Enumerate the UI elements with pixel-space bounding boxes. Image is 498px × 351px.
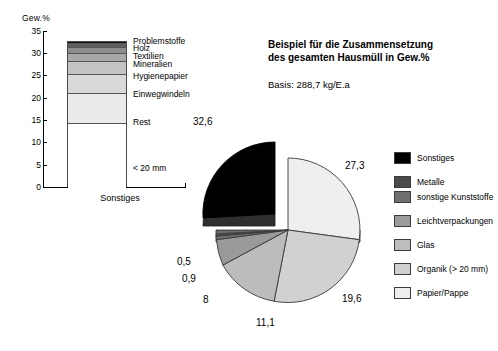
y-tick-label-10: 10 bbox=[19, 137, 41, 147]
chart-title-line2: des gesamten Hausmüll in Gew.% bbox=[268, 51, 498, 64]
legend-item-papier-pappe[interactable]: Papier/Pappe bbox=[394, 287, 498, 300]
y-axis-title: Gew.% bbox=[22, 13, 50, 23]
y-tick-5 bbox=[43, 165, 47, 166]
bar-segment-rest[interactable] bbox=[68, 94, 126, 124]
chart-title: Beispiel für die Zusammensetzung des ges… bbox=[268, 38, 498, 64]
pie-value-sonstige-kunststoffe: 0,9 bbox=[182, 273, 196, 284]
bar-label-einwegwindeln: Einwegwindeln bbox=[133, 89, 190, 99]
y-tick-label-0: 0 bbox=[19, 182, 41, 192]
legend-swatch-papier-pappe bbox=[394, 287, 411, 299]
bar-label-rest: Rest bbox=[133, 117, 150, 127]
pie-value-sonstiges: 32,6 bbox=[193, 116, 212, 127]
x-category-label-sonstiges: Sonstiges bbox=[50, 193, 190, 203]
legend-item-sonstige-kunststoffe[interactable]: sonstige Kunststoffe bbox=[394, 191, 498, 204]
bar-stack-sonstiges[interactable] bbox=[67, 41, 127, 187]
chart-basis-label: Basis: 288,7 kg/E.a bbox=[268, 79, 350, 90]
bar-label-unter-20mm: < 20 mm bbox=[133, 163, 166, 173]
y-tick-label-15: 15 bbox=[19, 115, 41, 125]
pie-slice-sonstiges-group[interactable] bbox=[203, 142, 275, 218]
pie-value-glas: 11,1 bbox=[256, 317, 275, 328]
legend-swatch-sonstige-kunststoffe bbox=[394, 191, 411, 203]
legend-swatch-sonstiges bbox=[394, 152, 411, 164]
pie-slice-organik[interactable] bbox=[274, 230, 359, 303]
legend-label-glas: Glas bbox=[417, 240, 434, 250]
pie-value-papier-pappe: 27,3 bbox=[345, 160, 364, 171]
pie-slice-sonstiges[interactable] bbox=[203, 142, 275, 218]
bar-segment-einwegwindeln[interactable] bbox=[68, 75, 126, 95]
legend-label-metalle: Metalle bbox=[417, 177, 444, 187]
y-tick-20 bbox=[43, 98, 47, 99]
bar-label-hygienepapier: Hygienepapier bbox=[133, 71, 188, 81]
y-tick-label-30: 30 bbox=[19, 48, 41, 58]
bar-label-mineralien: Mineralien bbox=[133, 59, 172, 69]
y-tick-label-35: 35 bbox=[19, 26, 41, 36]
bar-segment-hygienepapier[interactable] bbox=[68, 62, 126, 75]
legend-swatch-glas bbox=[394, 239, 411, 251]
legend-label-sonstiges: Sonstiges bbox=[417, 153, 454, 163]
legend-item-metalle[interactable]: Metalle bbox=[394, 176, 498, 189]
y-tick-label-5: 5 bbox=[19, 160, 41, 170]
y-tick-35 bbox=[43, 31, 47, 32]
legend-swatch-metalle bbox=[394, 176, 411, 188]
legend-label-organik: Organik (> 20 mm) bbox=[417, 264, 488, 274]
legend-item-organik[interactable]: Organik (> 20 mm) bbox=[394, 263, 498, 276]
y-tick-label-20: 20 bbox=[19, 93, 41, 103]
pie-value-metalle: 0,5 bbox=[177, 256, 191, 267]
legend-item-leichtverpackungen[interactable]: Leichtverpackungen bbox=[394, 215, 498, 228]
legend-item-sonstiges[interactable]: Sonstiges bbox=[394, 152, 498, 165]
chart-title-line1: Beispiel für die Zusammensetzung bbox=[268, 38, 498, 51]
pie-legend: Sonstiges Metalle sonstige Kunststoffe L… bbox=[394, 152, 498, 304]
legend-label-leichtverpackungen: Leichtverpackungen bbox=[417, 216, 493, 226]
bar-segment-mineralien[interactable] bbox=[68, 54, 126, 62]
pie-value-organik: 19,6 bbox=[342, 293, 361, 304]
y-tick-30 bbox=[43, 53, 47, 54]
y-tick-label-25: 25 bbox=[19, 70, 41, 80]
legend-label-papier-pappe: Papier/Pappe bbox=[417, 288, 469, 298]
legend-swatch-organik bbox=[394, 263, 411, 275]
pie-chart: 32,6 27,3 19,6 11,1 8 0,9 0,5 bbox=[175, 118, 390, 333]
chart-canvas: Gew.% 35 30 25 20 15 10 5 0 bbox=[0, 0, 498, 351]
legend-swatch-leichtverpackungen bbox=[394, 215, 411, 227]
pie-value-leichtverpackungen: 8 bbox=[203, 294, 209, 305]
y-tick-10 bbox=[43, 142, 47, 143]
legend-label-sonstige-kunststoffe: sonstige Kunststoffe bbox=[417, 192, 493, 202]
legend-item-glas[interactable]: Glas bbox=[394, 239, 498, 252]
y-tick-15 bbox=[43, 120, 47, 121]
bar-segment-unter-20mm[interactable] bbox=[68, 124, 126, 188]
y-tick-25 bbox=[43, 75, 47, 76]
